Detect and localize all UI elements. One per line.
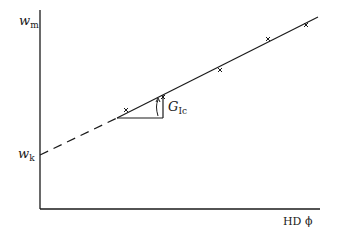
- wk-sub: k: [29, 153, 34, 163]
- y-label-wk: wk: [18, 147, 35, 163]
- wk-main: w: [18, 146, 29, 161]
- slope-main: G: [168, 99, 178, 114]
- wm-sub: m: [30, 20, 39, 30]
- diagram-canvas: [0, 0, 338, 236]
- x-axis-label: HD ϕ: [283, 215, 312, 228]
- slope-label: GIc: [168, 100, 187, 116]
- wm-main: w: [19, 13, 30, 28]
- cross-marker-icon: [266, 37, 270, 41]
- fit-line: [117, 17, 318, 118]
- y-label-wm: wm: [19, 14, 39, 30]
- slope-sub: Ic: [178, 106, 187, 116]
- cross-marker-icon: [218, 68, 222, 72]
- cross-marker-icon: [124, 108, 128, 112]
- extrapolation-dashed-line: [40, 118, 117, 155]
- slope-arc-arrow: [157, 100, 159, 116]
